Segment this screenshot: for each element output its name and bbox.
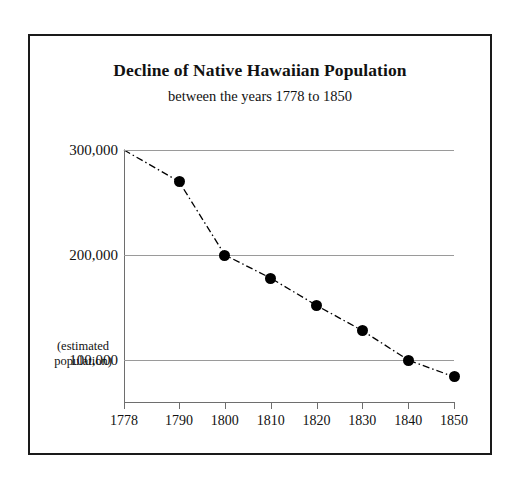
x-axis-tick-label: 1800 [211, 413, 239, 429]
x-axis-tick-label: 1830 [348, 413, 376, 429]
x-axis-tick-marks [30, 403, 494, 411]
x-axis-tick-mark [271, 403, 272, 409]
y-axis-labels: 100,000200,000300,000 [30, 36, 118, 457]
x-axis-tick-mark [317, 403, 318, 409]
data-point [357, 325, 368, 336]
x-axis-tick-mark [362, 403, 363, 409]
axis-note-line-1: (estimated [46, 339, 120, 354]
data-point [174, 176, 185, 187]
plot-area [124, 150, 454, 402]
x-axis-tick-label: 1778 [110, 413, 138, 429]
gridline [124, 150, 454, 151]
data-point [403, 355, 414, 366]
x-axis-tick-mark [408, 403, 409, 409]
x-axis-tick-mark [225, 403, 226, 409]
data-point [219, 250, 230, 261]
estimated-population-note: (estimated population) [46, 339, 120, 369]
chart-frame: Decline of Native Hawaiian Population be… [28, 34, 492, 455]
data-point [449, 371, 460, 382]
x-axis-tick-label: 1810 [257, 413, 285, 429]
axis-note-line-2: population) [46, 354, 120, 369]
x-axis-labels: 17781790180018101820183018401850 [30, 413, 494, 435]
x-axis-tick-label: 1790 [165, 413, 193, 429]
x-axis-tick-mark [179, 403, 180, 409]
x-axis-tick-mark [454, 403, 455, 409]
data-point [265, 273, 276, 284]
y-axis-tick-label: 300,000 [69, 142, 118, 159]
y-axis-tick-label: 200,000 [69, 247, 118, 264]
x-axis-tick-mark [124, 403, 125, 409]
x-axis-tick-label: 1840 [394, 413, 422, 429]
x-axis-tick-label: 1820 [303, 413, 331, 429]
data-point [311, 300, 322, 311]
gridline [124, 255, 454, 256]
x-axis-tick-label: 1850 [440, 413, 468, 429]
